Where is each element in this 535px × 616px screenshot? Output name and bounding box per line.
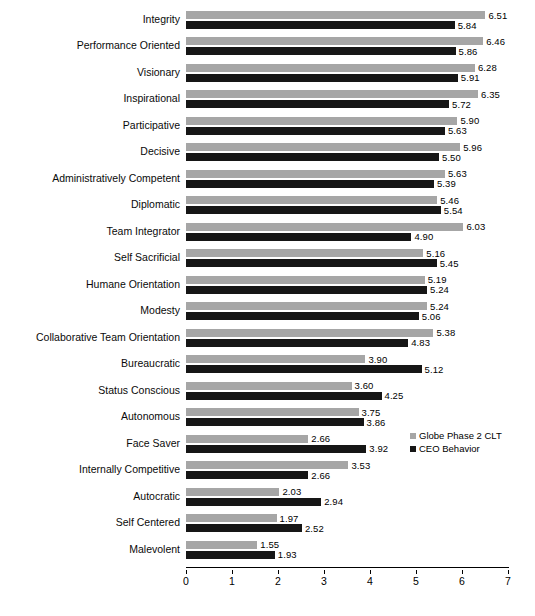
bar-value-label: 5.86 xyxy=(459,47,478,56)
x-tick-label: 7 xyxy=(498,575,518,587)
bar xyxy=(186,233,411,241)
bar-value-label: 5.50 xyxy=(442,153,461,162)
bar xyxy=(186,206,441,214)
x-tick-label: 1 xyxy=(222,575,242,587)
bar-value-label: 6.28 xyxy=(478,63,497,72)
bar xyxy=(186,11,485,19)
category-label: Self Centered xyxy=(2,517,180,528)
bar xyxy=(186,365,422,373)
bar-value-label: 5.19 xyxy=(428,275,447,284)
bar-value-label: 6.35 xyxy=(481,90,500,99)
chart-legend: Globe Phase 2 CLTCEO Behavior xyxy=(410,430,502,456)
bar-value-label: 3.53 xyxy=(351,461,370,470)
bar xyxy=(186,259,437,267)
legend-label: Globe Phase 2 CLT xyxy=(419,431,502,441)
bar-value-label: 6.03 xyxy=(466,222,485,231)
x-tick-mark xyxy=(324,570,325,574)
bar xyxy=(186,302,427,310)
category-label: Collaborative Team Orientation xyxy=(2,332,180,343)
bar-value-label: 5.63 xyxy=(448,169,467,178)
bar-value-label: 5.39 xyxy=(437,179,456,188)
legend-item: Globe Phase 2 CLT xyxy=(410,430,502,442)
bar-value-label: 6.46 xyxy=(486,37,505,46)
bar xyxy=(186,90,478,98)
category-label: Administratively Competent xyxy=(2,173,180,184)
bar-value-label: 2.52 xyxy=(305,524,324,533)
bar xyxy=(186,249,423,257)
bar-value-label: 3.60 xyxy=(355,381,374,390)
bar xyxy=(186,551,275,559)
bar xyxy=(186,418,364,426)
category-label: Diplomatic xyxy=(2,199,180,210)
category-label: Malevolent xyxy=(2,544,180,555)
bar-value-label: 5.54 xyxy=(444,206,463,215)
bar-value-label: 3.75 xyxy=(362,408,381,417)
bar xyxy=(186,498,321,506)
x-tick-label: 6 xyxy=(452,575,472,587)
bar xyxy=(186,127,445,135)
bar xyxy=(186,117,457,125)
bar xyxy=(186,21,455,29)
bar-value-label: 4.25 xyxy=(385,391,404,400)
bar xyxy=(186,355,365,363)
legend-label: CEO Behavior xyxy=(419,444,480,454)
bar xyxy=(186,435,308,443)
bar xyxy=(186,37,483,45)
bar-value-label: 5.24 xyxy=(430,285,449,294)
bar xyxy=(186,382,352,390)
bar xyxy=(186,461,348,469)
category-label: Humane Orientation xyxy=(2,279,180,290)
x-tick-mark xyxy=(186,570,187,574)
x-tick-label: 4 xyxy=(360,575,380,587)
bar xyxy=(186,286,427,294)
x-tick-label: 5 xyxy=(406,575,426,587)
bar xyxy=(186,329,433,337)
bar-value-label: 2.03 xyxy=(282,487,301,496)
category-label: Inspirational xyxy=(2,93,180,104)
bar-value-label: 5.90 xyxy=(460,116,479,125)
category-label: Bureaucratic xyxy=(2,358,180,369)
bar-value-label: 5.72 xyxy=(452,100,471,109)
legend-item: CEO Behavior xyxy=(410,443,502,455)
category-label: Internally Competitive xyxy=(2,464,180,475)
bar xyxy=(186,47,456,55)
bar-value-label: 1.93 xyxy=(278,550,297,559)
bar-value-label: 5.24 xyxy=(430,302,449,311)
bar-value-label: 5.38 xyxy=(436,328,455,337)
x-tick-mark xyxy=(462,570,463,574)
category-label: Integrity xyxy=(2,14,180,25)
category-axis-labels: IntegrityPerformance OrientedVisionaryIn… xyxy=(0,10,180,566)
bar xyxy=(186,408,359,416)
x-tick-mark xyxy=(370,570,371,574)
bar-value-label: 4.90 xyxy=(414,232,433,241)
bar-value-label: 1.55 xyxy=(260,540,279,549)
x-tick-mark xyxy=(232,570,233,574)
bar-value-label: 5.06 xyxy=(422,312,441,321)
bar xyxy=(186,541,257,549)
category-label: Performance Oriented xyxy=(2,40,180,51)
bar-value-label: 4.83 xyxy=(411,338,430,347)
bar xyxy=(186,223,463,231)
bar xyxy=(186,339,408,347)
x-tick-label: 0 xyxy=(176,575,196,587)
bar xyxy=(186,153,439,161)
x-tick-mark xyxy=(416,570,417,574)
plot-area: 6.515.846.465.866.285.916.355.725.905.63… xyxy=(186,10,508,566)
bar-value-label: 5.96 xyxy=(463,143,482,152)
bar-value-label: 3.90 xyxy=(368,355,387,364)
x-tick-label: 2 xyxy=(268,575,288,587)
category-label: Modesty xyxy=(2,305,180,316)
category-label: Face Saver xyxy=(2,438,180,449)
bar xyxy=(186,445,366,453)
x-tick-mark xyxy=(278,570,279,574)
bar-value-label: 3.92 xyxy=(369,444,388,453)
bar-value-label: 1.97 xyxy=(280,514,299,523)
bar-value-label: 5.91 xyxy=(461,73,480,82)
x-tick-label: 3 xyxy=(314,575,334,587)
bar xyxy=(186,471,308,479)
bar xyxy=(186,392,382,400)
category-label: Status Conscious xyxy=(2,385,180,396)
legend-swatch xyxy=(410,433,416,439)
bar-value-label: 3.86 xyxy=(367,418,386,427)
bar xyxy=(186,524,302,532)
